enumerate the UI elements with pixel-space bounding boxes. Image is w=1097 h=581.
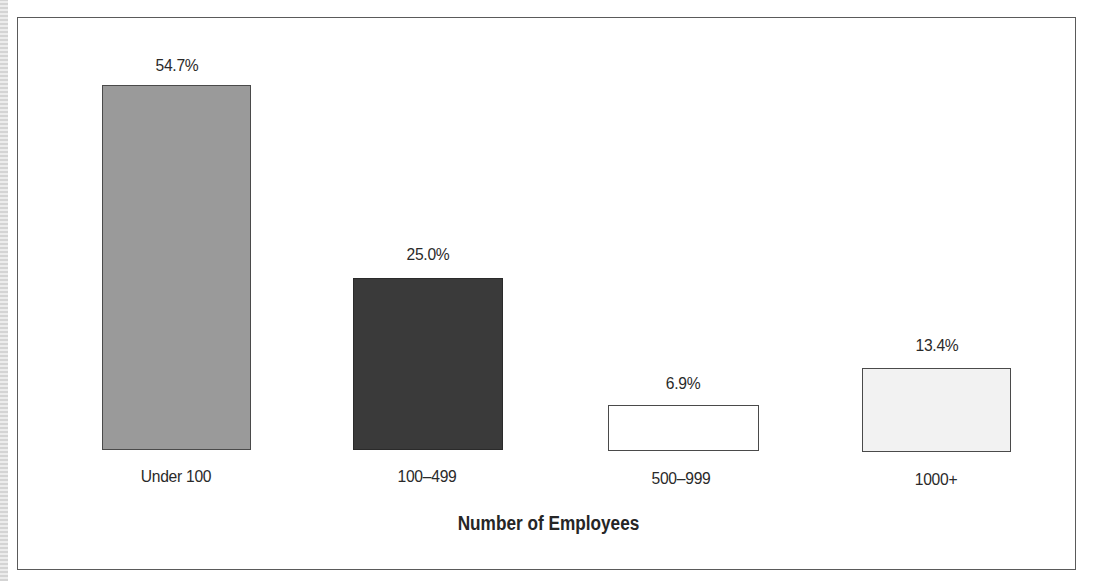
bar-500-999: [608, 405, 759, 451]
bar-value-label: 54.7%: [103, 56, 250, 76]
bar-value-label: 6.9%: [609, 374, 756, 394]
page-edge-strip: [0, 0, 8, 581]
bar-under-100: [102, 85, 251, 450]
category-label: Under 100: [102, 467, 249, 487]
bar-1000-plus: [862, 368, 1011, 452]
category-label: 1000+: [862, 470, 1009, 490]
category-label: 500–999: [607, 469, 754, 489]
bar-value-label: 25.0%: [354, 245, 501, 265]
bar-100-499: [353, 278, 503, 450]
category-label: 100–499: [353, 467, 500, 487]
bar-value-label: 13.4%: [863, 336, 1010, 356]
x-axis-title: Number of Employees: [77, 512, 1020, 535]
